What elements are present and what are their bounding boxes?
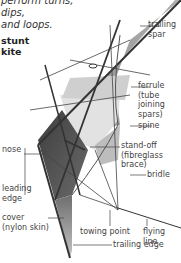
label-trailing-spar: trailing spar	[148, 20, 176, 39]
label-bridle: bridle	[147, 170, 170, 180]
lower-sail	[55, 195, 72, 258]
ferrule-icon	[89, 64, 97, 68]
label-towing-point: towing point	[80, 227, 130, 237]
label-cover: cover (nylon skin)	[2, 213, 49, 232]
label-stand-off: stand-off (fibreglass brace)	[121, 141, 181, 170]
label-leading-edge: leading edge	[2, 184, 32, 203]
label-ferrule: ferrule (tube joining spars)	[138, 81, 181, 119]
label-trailing-edge: trailing edge	[113, 240, 164, 250]
flying-line	[118, 208, 181, 228]
label-nose: nose	[2, 145, 21, 155]
label-spine: spine	[138, 121, 159, 131]
